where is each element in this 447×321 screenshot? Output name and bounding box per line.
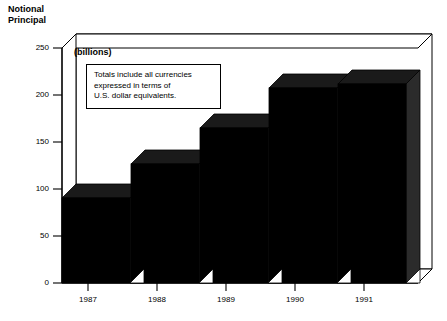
chart-figure: Notional Principal [0,0,447,321]
y-tick-250: 250 [21,44,49,52]
y-tick-200: 200 [21,91,49,99]
bar-side-face [406,70,420,283]
x-tick-1990: 1990 [270,296,320,304]
x-tick-1991: 1991 [339,296,389,304]
y-tick-150: 150 [21,138,49,146]
bar-front-face [200,128,268,283]
y-tick-0: 0 [21,279,49,287]
x-tick-1987: 1987 [63,296,113,304]
x-axis-ticks [88,283,364,291]
x-tick-1989: 1989 [201,296,251,304]
bar-front-face [131,164,199,283]
bar-front-face [338,84,406,283]
ceiling-panel [62,34,432,48]
bar-front-face [269,88,337,283]
note-box: Totals include all currencies expressed … [86,64,221,109]
plot-area: 250 200 150 100 50 0 1987 1988 1989 1990… [0,0,447,321]
bar-1991 [338,70,420,283]
bar-front-face [62,198,130,283]
x-tick-1988: 1988 [132,296,182,304]
note-text: Totals include all currencies expressed … [94,70,214,102]
y-tick-100: 100 [21,185,49,193]
units-label: (billions) [74,47,112,57]
y-tick-50: 50 [21,232,49,240]
y-axis-ticks [53,48,62,283]
